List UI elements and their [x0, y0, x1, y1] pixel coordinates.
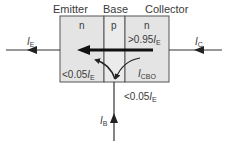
- ie-label: IE: [27, 36, 35, 48]
- base-label: Base: [103, 3, 128, 15]
- ib-label: IB: [100, 115, 108, 127]
- base-doping: p: [111, 20, 117, 31]
- emitter-doping: n: [79, 20, 85, 31]
- collector-doping: n: [144, 20, 150, 31]
- ic-label: IC: [195, 36, 203, 48]
- emitter-label: Emitter: [53, 3, 88, 15]
- transistor-diagram: Emitter Base Collector n p n IE IC >0.95…: [0, 0, 226, 144]
- base-arrow-icon: [110, 113, 118, 123]
- collector-label: Collector: [145, 3, 189, 15]
- base-current-annotation: <0.05IE: [124, 91, 157, 103]
